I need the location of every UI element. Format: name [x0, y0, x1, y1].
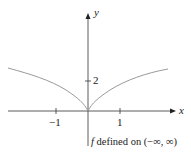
- y-axis-arrow-icon: [86, 13, 91, 19]
- tick-label-neg1: −1: [49, 116, 61, 128]
- tick-label-1: 1: [117, 116, 123, 128]
- tick-label-2: 2: [93, 74, 99, 86]
- x-axis-arrow-icon: [170, 109, 176, 114]
- caption-text: defined on (−∞, ∞): [94, 136, 177, 147]
- caption: f defined on (−∞, ∞): [91, 136, 177, 147]
- x-axis-label: x: [179, 104, 184, 116]
- y-axis-label: y: [94, 6, 99, 18]
